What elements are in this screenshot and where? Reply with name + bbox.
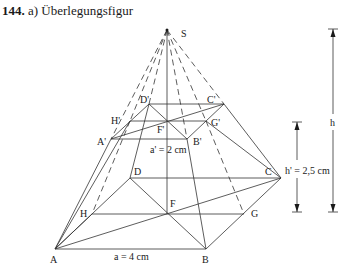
label-F: F <box>170 198 176 209</box>
base-square <box>55 178 281 249</box>
label-C-prime: C' <box>207 94 216 105</box>
construction-line <box>55 214 92 249</box>
label-A-prime: A' <box>97 136 106 147</box>
label-G-prime: G' <box>211 117 220 128</box>
apex-point <box>166 29 169 32</box>
label-frustum-height: h' = 2,5 cm <box>285 165 330 176</box>
pyramid-diagram: S A B C D F G H A' B' C' D' F' G' H' a =… <box>0 0 354 269</box>
label-top-edge: a' = 2 cm <box>150 144 187 155</box>
lateral-edges <box>55 104 281 249</box>
label-S: S <box>181 28 187 39</box>
label-F-prime: F' <box>157 124 165 135</box>
label-A: A <box>50 254 58 265</box>
label-B: B <box>202 254 209 265</box>
label-total-height: h <box>330 117 335 128</box>
construction-line <box>55 121 130 249</box>
label-H-prime: H' <box>111 115 120 126</box>
label-D: D <box>134 166 141 177</box>
label-H: H <box>80 208 87 219</box>
label-B-prime: B' <box>193 136 202 147</box>
label-base-edge: a = 4 cm <box>114 251 149 262</box>
label-D-prime: D' <box>140 94 149 105</box>
label-C: C <box>265 166 272 177</box>
label-G: G <box>251 208 258 219</box>
